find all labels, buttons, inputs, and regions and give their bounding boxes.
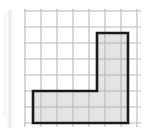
l-shape-grid-figure bbox=[0, 0, 149, 132]
grid-figure-container: L-shaped polygon drawn on square grid pa… bbox=[0, 0, 149, 132]
scan-smudge-secondary bbox=[2, 14, 8, 118]
